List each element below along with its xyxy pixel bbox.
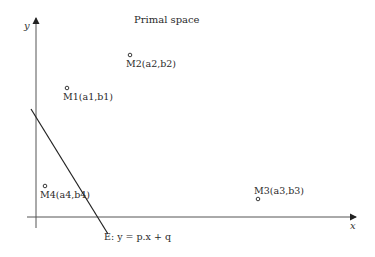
point-marker-icon — [256, 197, 260, 201]
point-marker-icon — [43, 184, 47, 188]
diagram-title: Primal space — [134, 14, 200, 25]
point-m1: M1(a1,b1) — [63, 86, 113, 102]
point-m4-label: M4(a4,b4) — [40, 189, 90, 200]
point-m2: M2(a2,b2) — [126, 53, 176, 69]
primal-space-diagram: y x Primal space E: y = p.x + q M1(a1,b1… — [0, 0, 375, 257]
point-m3-label: M3(a3,b3) — [254, 185, 304, 196]
line-e-label: E: y = p.x + q — [104, 231, 171, 242]
point-marker-icon — [128, 53, 132, 57]
point-m2-label: M2(a2,b2) — [126, 58, 176, 69]
x-axis-label: x — [350, 220, 356, 231]
y-axis-label: y — [23, 20, 30, 31]
point-marker-icon — [65, 86, 69, 90]
line-e — [31, 109, 108, 234]
point-m4: M4(a4,b4) — [40, 184, 90, 200]
point-m3: M3(a3,b3) — [254, 185, 304, 201]
point-m1-label: M1(a1,b1) — [63, 91, 113, 102]
